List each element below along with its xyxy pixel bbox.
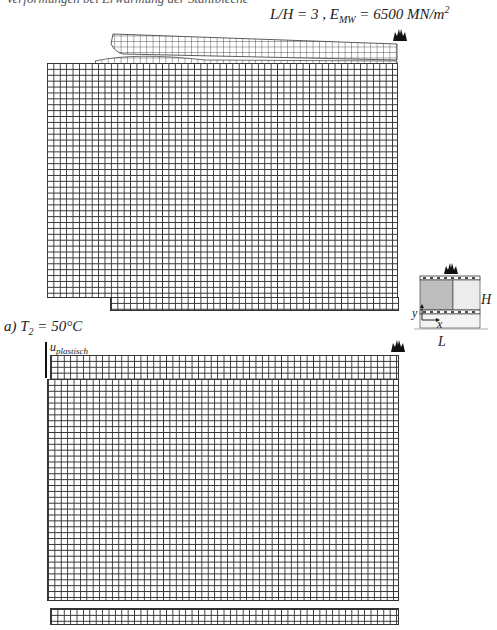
axis-y-label: y [412,306,417,321]
lower-deformed-mesh [47,379,399,601]
lower-bottom-face-sheet [50,608,399,625]
plastic-displacement-bar [45,342,47,378]
flame-icon [390,339,406,353]
cut-off-heading: Verformungen bei Erwärmung der Stahlblec… [6,0,249,7]
upper-bottom-face-sheet [110,297,399,311]
length-label: L [438,334,446,350]
figure-caption: a) T2 = 50°C [4,318,82,337]
upper-deformed-mesh [47,63,398,298]
plastic-displacement-label: uplastisch [50,340,88,356]
axis-x-label: x [437,317,442,332]
flame-icon [444,263,458,274]
lower-top-face-sheet [50,355,399,380]
figure-title: L/H = 3 , EMW = 6500 MN/m2 [270,4,449,25]
height-label: H [481,292,491,308]
